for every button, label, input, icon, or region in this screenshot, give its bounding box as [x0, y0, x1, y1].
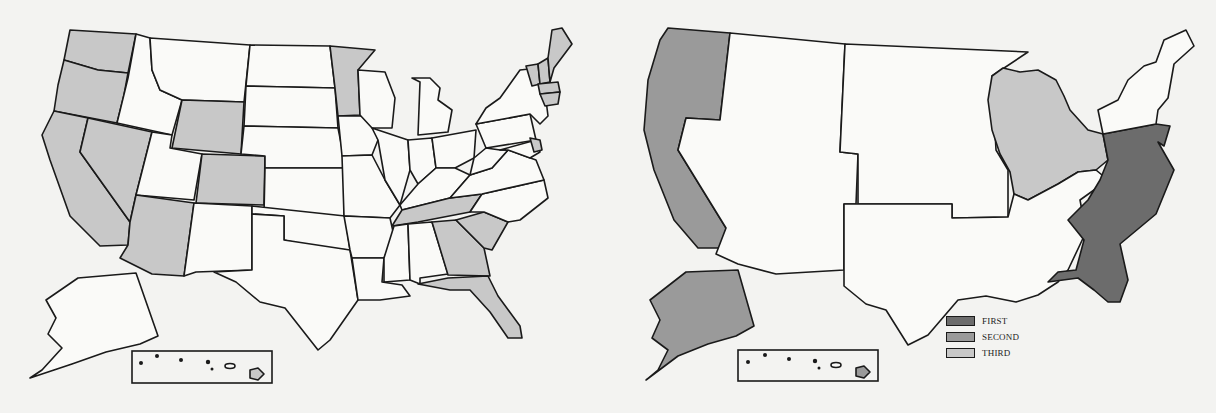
hawaii-big-island — [856, 366, 870, 378]
state-alaska — [30, 273, 158, 378]
state-maine — [548, 28, 572, 82]
state-wisconsin — [358, 70, 395, 128]
state-new-mexico — [184, 203, 252, 276]
map-legend: FIRST SECOND THIRD — [946, 314, 1019, 362]
hawaii-big-island — [250, 368, 264, 380]
right-region-map — [608, 0, 1216, 413]
state-ohio — [432, 130, 476, 168]
hawaii-islands — [746, 353, 870, 378]
state-south-dakota — [244, 86, 338, 128]
legend-item-first: FIRST — [946, 314, 1019, 328]
legend-item-second: SECOND — [946, 330, 1019, 344]
state-wyoming — [172, 100, 244, 154]
state-colorado — [196, 154, 265, 205]
state-north-dakota — [246, 45, 335, 88]
legend-item-third: THIRD — [946, 346, 1019, 360]
legend-label-second: SECOND — [982, 332, 1019, 342]
state-montana — [150, 38, 250, 102]
right-map-svg — [608, 0, 1216, 413]
legend-swatch-third — [946, 348, 975, 358]
legend-swatch-first — [946, 316, 975, 326]
hawaii-islands — [139, 354, 264, 380]
region-northeast — [1098, 30, 1194, 134]
legend-label-third: THIRD — [982, 348, 1011, 358]
legend-label-first: FIRST — [982, 316, 1008, 326]
state-michigan — [412, 78, 452, 135]
state-florida — [418, 276, 522, 338]
left-state-map — [0, 0, 600, 413]
left-map-svg — [0, 0, 600, 413]
legend-swatch-second — [946, 332, 975, 342]
